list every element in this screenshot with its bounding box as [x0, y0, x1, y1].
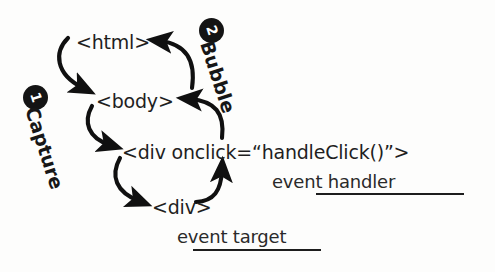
- step-badge-capture-number: 1: [22, 89, 49, 106]
- event-target-underline: [193, 249, 321, 251]
- node-label-html: <html>: [76, 31, 150, 53]
- bubble-arrow-body-to-html: [160, 41, 193, 88]
- caption-event-target: event target: [177, 226, 286, 247]
- node-label-div-target: <div>: [152, 196, 211, 218]
- event-handler-underline: [316, 193, 464, 195]
- step-badge-bubble-number: 2: [198, 22, 225, 39]
- node-label-body: <body>: [96, 90, 174, 112]
- capture-arrow-div-handler-to-div-target: [115, 158, 139, 201]
- caption-event-handler: event handler: [272, 171, 395, 192]
- event-propagation-diagram: <html> <body> <div onclick=“handleClick(…: [0, 0, 495, 272]
- node-label-div-onclick: <div onclick=“handleClick()”>: [122, 141, 409, 163]
